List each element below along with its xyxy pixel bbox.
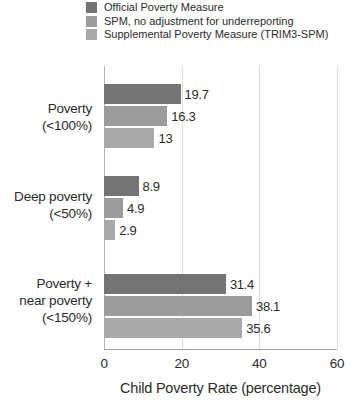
legend-swatch [86, 16, 97, 27]
bar-value-label: 4.9 [127, 201, 144, 216]
category-label-line: Poverty [0, 100, 92, 117]
bar-value-label: 35.6 [246, 321, 270, 336]
bar-row: 31.4 [104, 274, 337, 294]
plot-area: 19.716.3138.94.92.931.438.135.6 [104, 66, 337, 350]
category-label-line: Poverty + [0, 275, 92, 292]
bar-value-label: 31.4 [230, 277, 254, 292]
bar-value-label: 19.7 [185, 87, 209, 102]
category-label-line: Deep poverty [0, 188, 92, 205]
legend-item: Official Poverty Measure [86, 1, 328, 14]
legend-label: Official Poverty Measure [104, 1, 224, 14]
legend-label: SPM, no adjustment for underreporting [104, 15, 294, 28]
legend-swatch [86, 2, 97, 13]
bar-value-label: 13 [158, 131, 172, 146]
gridline [337, 66, 338, 349]
bar-group: 31.438.135.6 [104, 274, 337, 340]
bar-group: 8.94.92.9 [104, 176, 337, 242]
category-label-line: near poverty [0, 292, 92, 309]
bar-value-label: 38.1 [256, 299, 280, 314]
x-tick-label: 60 [330, 356, 344, 371]
bar [104, 106, 167, 126]
bar [104, 296, 252, 316]
bar [104, 84, 181, 104]
bar [104, 220, 115, 240]
category-label-line: (<100%) [0, 117, 92, 134]
child-poverty-rate-chart: Official Poverty MeasureSPM, no adjustme… [0, 0, 353, 408]
x-tick-label: 0 [100, 356, 107, 371]
bar [104, 198, 123, 218]
bar-value-label: 16.3 [171, 109, 195, 124]
category-label: Poverty(<100%) [0, 100, 92, 134]
x-tick-label: 40 [252, 356, 266, 371]
legend-item: Supplemental Poverty Measure (TRIM3-SPM) [86, 28, 328, 41]
bar-value-label: 2.9 [119, 223, 136, 238]
x-axis-label: Child Poverty Rate (percentage) [104, 380, 337, 396]
bar [104, 128, 154, 148]
bar-row: 38.1 [104, 296, 337, 316]
bar-row: 2.9 [104, 220, 337, 240]
bar-group: 19.716.313 [104, 84, 337, 150]
bar [104, 318, 242, 338]
bar-row: 16.3 [104, 106, 337, 126]
legend-item: SPM, no adjustment for underreporting [86, 15, 328, 28]
x-tick-label: 20 [174, 356, 188, 371]
legend-swatch [86, 29, 97, 40]
category-label-line: (<50%) [0, 205, 92, 222]
bar [104, 176, 139, 196]
category-label: Poverty +near poverty(<150%) [0, 275, 92, 326]
category-label: Deep poverty(<50%) [0, 188, 92, 222]
bar-value-label: 8.9 [143, 179, 160, 194]
bar-row: 4.9 [104, 198, 337, 218]
category-label-line: (<150%) [0, 309, 92, 326]
bar-row: 8.9 [104, 176, 337, 196]
bar [104, 274, 226, 294]
legend-label: Supplemental Poverty Measure (TRIM3-SPM) [104, 28, 328, 41]
bar-row: 13 [104, 128, 337, 148]
bar-row: 19.7 [104, 84, 337, 104]
bar-row: 35.6 [104, 318, 337, 338]
chart-legend: Official Poverty MeasureSPM, no adjustme… [86, 1, 328, 42]
